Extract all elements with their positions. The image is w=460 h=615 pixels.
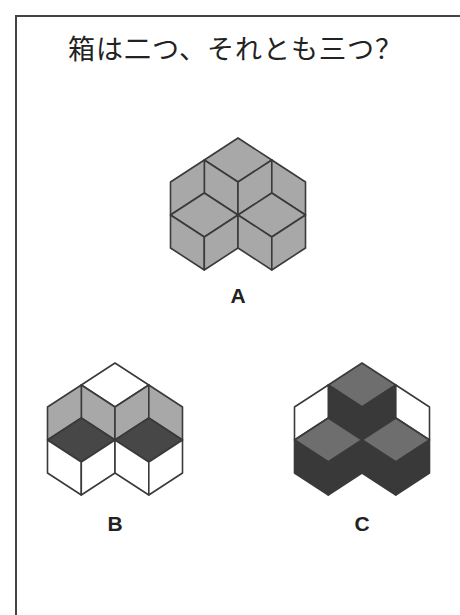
- figure-a: [171, 138, 306, 270]
- figure-b-label: B: [95, 512, 135, 536]
- figure-b: [48, 363, 183, 495]
- figure-a-label: A: [218, 284, 258, 308]
- figure-c: [295, 363, 430, 495]
- figure-c-label: C: [342, 512, 382, 536]
